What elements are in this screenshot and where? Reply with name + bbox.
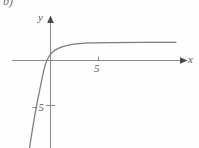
y-axis-label: y [38, 11, 43, 23]
y-tick-label-neg5: −5 [31, 101, 44, 113]
x-axis-label: x [188, 53, 193, 65]
x-tick-label-5: 5 [94, 62, 100, 74]
function-curve [30, 42, 177, 148]
x-axis-arrowhead [180, 57, 188, 64]
y-axis-arrowhead [47, 16, 54, 24]
graph-figure: b) y x 5 −5 [0, 0, 199, 148]
coordinate-plot [0, 0, 199, 148]
